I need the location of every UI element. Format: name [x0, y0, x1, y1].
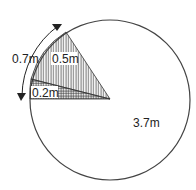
- label-arc-length: 0.7m: [12, 52, 39, 66]
- label-remainder: 3.7m: [133, 116, 160, 130]
- circle-diagram: 0.7m 0.5m 0.2m 3.7m: [0, 0, 196, 190]
- label-sector-upper: 0.5m: [52, 52, 79, 66]
- label-sector-lower: 0.2m: [32, 86, 59, 100]
- arrow-bottom-icon: [17, 93, 26, 101]
